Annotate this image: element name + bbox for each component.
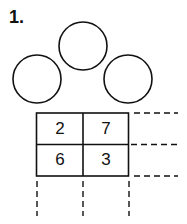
circle-top[interactable] [59,22,107,70]
puzzle-diagram [0,0,187,224]
grid-cell-r1c2: 7 [83,113,129,144]
grid-cell-r2c1: 6 [37,144,83,175]
grid-cell-r2c2: 3 [83,144,129,175]
grid-cell-r1c1: 2 [37,113,83,144]
circle-left[interactable] [13,55,61,103]
circle-right[interactable] [104,55,152,103]
